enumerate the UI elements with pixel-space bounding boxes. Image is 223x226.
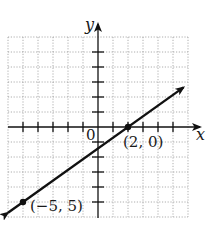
point-neg5-5-label: (−5, 5) bbox=[30, 197, 83, 215]
point-2-0 bbox=[125, 124, 131, 130]
origin-label: 0 bbox=[86, 126, 96, 144]
axes bbox=[8, 24, 200, 218]
x-axis-label: x bbox=[196, 125, 205, 144]
point-neg5-5 bbox=[20, 199, 26, 205]
coordinate-plane: y x 0 (2, 0) (−5, 5) bbox=[0, 0, 223, 226]
point-2-0-label: (2, 0) bbox=[123, 133, 163, 151]
y-axis-label: y bbox=[84, 15, 95, 34]
